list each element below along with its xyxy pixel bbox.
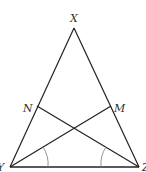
label-m: M bbox=[113, 102, 126, 115]
label-x: X bbox=[69, 12, 79, 25]
angle-arc-z bbox=[101, 147, 106, 167]
segment-ym bbox=[10, 106, 111, 167]
triangle-diagram: X N M Y Z bbox=[0, 0, 146, 172]
label-n: N bbox=[22, 102, 33, 115]
label-y: Y bbox=[0, 161, 6, 172]
angle-arc-y bbox=[43, 147, 48, 167]
side-xz bbox=[74, 28, 139, 167]
side-xy bbox=[10, 28, 74, 167]
segment-zn bbox=[37, 106, 139, 167]
label-z: Z bbox=[141, 161, 146, 172]
